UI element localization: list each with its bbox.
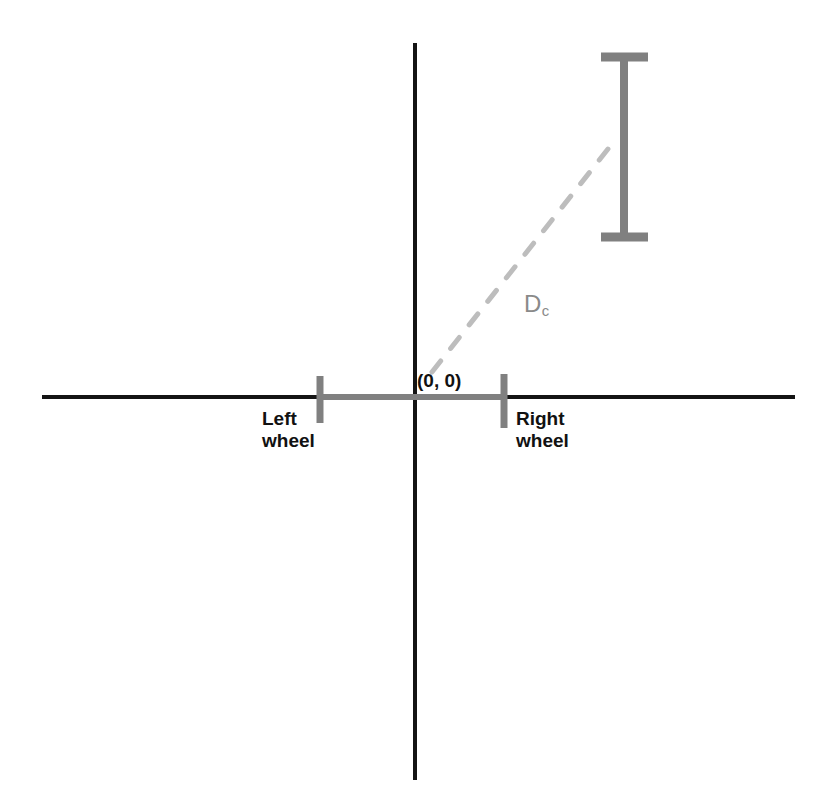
distance-symbol: D	[524, 290, 541, 317]
dashed-distance-line	[432, 149, 608, 372]
distance-dc-label: Dc	[524, 262, 549, 319]
left-wheel-label: Left wheel	[205, 408, 325, 453]
distance-subscript: c	[542, 303, 549, 319]
diagram-canvas: (0, 0) Left wheel Right wheel Dc	[0, 0, 830, 810]
origin-label: (0, 0)	[417, 370, 461, 392]
diagram-graphics	[0, 0, 830, 810]
right-wheel-label: Right wheel	[516, 408, 666, 453]
